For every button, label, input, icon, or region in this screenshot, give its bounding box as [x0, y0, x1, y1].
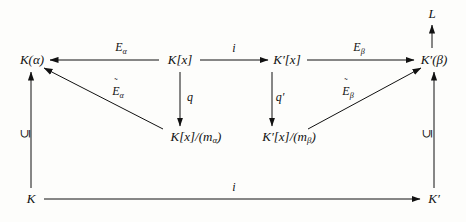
node-Kx: K[x] [168, 52, 193, 68]
inclusion-symbol-incl-left: ⊆ [18, 129, 33, 139]
node-Kxquot: K[x]/(mα) [171, 129, 222, 145]
node-Kpbeta: K′(β) [421, 52, 448, 68]
node-Kpxquot: K′[x]/(mβ) [262, 129, 315, 145]
node-L: L [428, 6, 435, 22]
commutative-diagram: LK(α)K[x]K′[x]K′(β)K[x]/(mα)K′[x]/(mβ)KK… [0, 0, 466, 222]
node-Kalpha: K(α) [20, 52, 44, 68]
edge-label-E-beta: Eβ [353, 40, 364, 55]
edge-label-E-tilde-alpha: ˜Eα [112, 84, 124, 99]
node-K: K [27, 191, 36, 207]
arrow-Kpxquot-to-Kpbeta [308, 68, 421, 129]
node-Kpx: K′[x] [273, 52, 300, 68]
edge-label-i-bottom: i [232, 180, 235, 195]
edge-label-E-tilde-beta: ˜Eβ [342, 84, 353, 99]
arrow-Kxquot-to-Kalpha [44, 68, 163, 129]
node-Kprime: K′ [428, 191, 440, 207]
edge-label-q: q [187, 90, 193, 105]
inclusion-symbol-incl-right: ⊆ [420, 129, 435, 139]
edge-label-E-alpha: Eα [115, 40, 127, 55]
edge-label-i-top: i [232, 41, 235, 56]
edge-label-q-prime: q′ [276, 90, 285, 105]
